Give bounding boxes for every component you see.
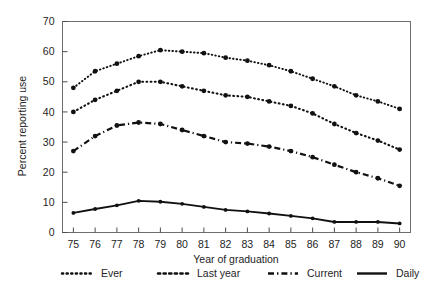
data-point-marker [158,122,163,127]
data-point-marker [245,58,250,63]
data-point-marker [71,85,76,90]
data-point-marker [223,140,228,145]
y-tick-label: 20 [43,166,55,178]
data-point-marker [245,141,250,146]
x-tick-label: 77 [111,238,123,250]
y-tick-label: 50 [43,75,55,87]
data-point-marker [310,76,315,81]
x-tick-label: 83 [242,238,254,250]
data-point-marker [136,120,141,125]
y-tick-label: 70 [43,15,55,27]
y-tick-label: 40 [43,106,55,118]
x-tick-label: 76 [89,238,101,250]
data-point-marker [332,84,337,89]
data-point-marker [93,69,98,74]
data-point-marker [267,212,271,216]
y-tick-label: 30 [43,136,55,148]
data-point-marker [376,220,380,224]
x-tick-label: 75 [68,238,80,250]
data-point-marker [180,128,185,133]
x-tick-label: 78 [133,238,145,250]
data-point-marker [137,199,141,203]
data-point-marker [71,149,76,154]
x-axis-title: Year of graduation [193,253,279,265]
data-point-marker [288,149,293,154]
x-tick-label: 86 [307,238,319,250]
data-point-marker [397,183,402,188]
data-point-marker [332,162,337,167]
data-point-marker [93,134,98,139]
data-point-marker [71,110,76,115]
data-point-marker [93,97,98,102]
legend-label: Current [307,267,342,279]
data-point-marker [310,111,315,116]
data-point-marker [136,54,141,59]
data-point-marker [223,93,228,98]
data-point-marker [375,176,380,181]
data-point-marker [115,203,119,207]
data-point-marker [267,99,272,104]
x-tick-label: 87 [329,238,341,250]
x-tick-label: 84 [263,238,275,250]
data-point-marker [354,131,359,136]
x-tick-label: 82 [220,238,232,250]
data-point-marker [245,94,250,99]
data-point-marker [201,134,206,139]
data-point-marker [354,220,358,224]
x-tick-label: 89 [372,238,384,250]
data-point-marker [354,93,359,98]
data-point-marker [158,79,163,84]
data-point-marker [288,69,293,74]
y-tick-label: 10 [43,196,55,208]
x-tick-label: 85 [285,238,297,250]
x-tick-label: 90 [394,238,406,250]
x-tick-label: 81 [198,238,210,250]
data-point-marker [397,107,402,112]
data-point-marker [311,216,315,220]
data-point-marker [114,88,119,93]
data-point-marker [332,220,336,224]
data-point-marker [224,208,228,212]
data-point-marker [158,48,163,53]
x-tick-label: 79 [155,238,167,250]
data-point-marker [114,123,119,128]
data-point-marker [93,207,97,211]
data-point-marker [202,205,206,209]
data-point-marker [114,61,119,66]
data-point-marker [310,155,315,160]
legend-label: Ever [101,267,123,279]
line-chart: 010203040506070 757677787980818283848586… [0,0,442,301]
data-point-marker [158,200,162,204]
data-point-marker [289,214,293,218]
data-point-marker [180,84,185,89]
data-point-marker [201,51,206,56]
data-point-marker [136,79,141,84]
data-point-marker [180,49,185,54]
legend-label: Daily [396,267,420,279]
y-tick-label: 60 [43,45,55,57]
data-point-marker [397,147,402,152]
data-point-marker [71,211,75,215]
data-point-marker [375,138,380,143]
data-point-marker [267,63,272,68]
data-point-marker [398,222,402,226]
legend-label: Last year [197,267,241,279]
data-point-marker [267,144,272,149]
chart-figure: 010203040506070 757677787980818283848586… [0,0,442,301]
y-tick-label: 0 [49,226,55,238]
data-point-marker [332,122,337,127]
data-point-marker [375,99,380,104]
data-point-marker [354,170,359,175]
data-point-marker [201,88,206,93]
data-point-marker [245,210,249,214]
data-point-marker [288,104,293,109]
x-tick-label: 88 [350,238,362,250]
y-axis-title: Percent reporting use [16,76,28,177]
data-point-marker [180,202,184,206]
x-tick-label: 80 [176,238,188,250]
data-point-marker [223,55,228,60]
